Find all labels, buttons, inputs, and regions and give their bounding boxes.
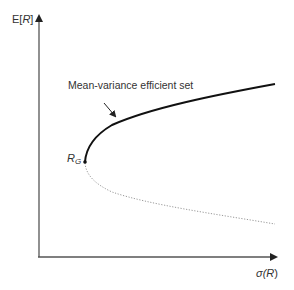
min-variance-point	[83, 160, 87, 164]
min-variance-point-label: RG	[67, 153, 81, 166]
efficient-set-annotation: Mean-variance efficient set	[68, 80, 193, 91]
efficient-frontier-curve	[85, 84, 275, 162]
x-axis-label: σ(R)	[256, 268, 278, 279]
frontier-diagram	[0, 0, 294, 290]
y-axis-label: E[R]	[12, 14, 33, 25]
inefficient-branch-curve	[85, 163, 275, 224]
annotation-pointer-arrow	[104, 103, 115, 116]
